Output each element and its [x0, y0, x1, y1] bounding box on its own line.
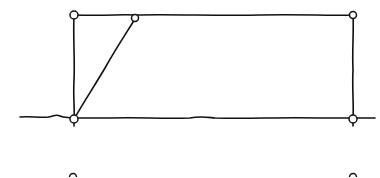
frame-left-post [74, 15, 75, 119]
joint-nodes [70, 11, 358, 177]
frame-top-beam [74, 15, 353, 16]
lower-right-partial-node-node-icon [350, 174, 357, 178]
top-diagonal-joint-node-icon [132, 15, 139, 22]
lower-left-partial-node-node-icon [70, 174, 77, 178]
top-right-joint-node-icon [350, 12, 357, 19]
diagonal-brace [74, 19, 135, 119]
frame-diagram [0, 0, 380, 177]
top-left-joint-node-icon [70, 11, 78, 19]
frame-right-post [353, 15, 354, 119]
bottom-left-support-node-icon [70, 115, 78, 123]
bottom-right-support-node-icon [349, 115, 357, 123]
